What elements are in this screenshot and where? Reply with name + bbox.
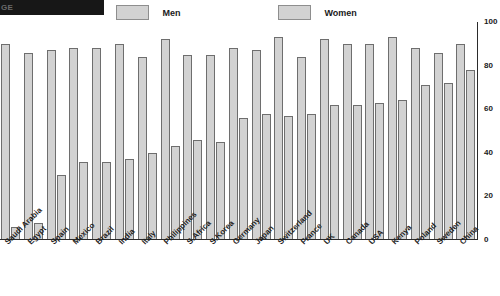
legend-label-men: Men [162, 8, 180, 18]
bar-men[interactable] [320, 39, 329, 240]
bar-group [1, 22, 21, 240]
y-axis-tick: 40 [484, 149, 493, 157]
bar-women[interactable] [307, 114, 316, 240]
bar-women[interactable] [239, 118, 248, 240]
bar-men[interactable] [274, 37, 283, 240]
bar-group [320, 22, 340, 240]
bar-group [47, 22, 67, 240]
bars-container [0, 22, 478, 240]
y-axis-tick: 100 [484, 18, 497, 26]
bar-group [365, 22, 385, 240]
bar-group [138, 22, 158, 240]
bar-group [206, 22, 226, 240]
bar-men[interactable] [456, 44, 465, 240]
bar-women[interactable] [353, 105, 362, 240]
legend-swatch-women [278, 5, 311, 20]
bar-men[interactable] [206, 55, 215, 240]
bar-group [229, 22, 249, 240]
bar-group [183, 22, 203, 240]
legend-swatch-men [116, 5, 149, 20]
bar-chart-plot-area [0, 22, 478, 240]
legend-label-women: Women [324, 8, 356, 18]
y-axis: 020406080100 [478, 0, 500, 296]
bar-group [115, 22, 135, 240]
bar-group [274, 22, 294, 240]
bar-women[interactable] [330, 105, 339, 240]
bar-group [343, 22, 363, 240]
bar-men[interactable] [343, 44, 352, 240]
bar-men[interactable] [92, 48, 101, 240]
bar-group [411, 22, 431, 240]
bar-men[interactable] [47, 50, 56, 240]
bar-women[interactable] [375, 103, 384, 240]
y-axis-tick: 0 [484, 236, 488, 244]
bar-men[interactable] [115, 44, 124, 240]
bar-men[interactable] [161, 39, 170, 240]
bar-group [388, 22, 408, 240]
bar-group [252, 22, 272, 240]
bar-men[interactable] [138, 57, 147, 240]
bar-women[interactable] [466, 70, 475, 240]
y-axis-tick: 60 [484, 105, 493, 113]
bar-group [456, 22, 476, 240]
legend-item-men: Men [116, 3, 180, 20]
bar-men[interactable] [411, 48, 420, 240]
bar-women[interactable] [444, 83, 453, 240]
y-axis-tick: 80 [484, 62, 493, 70]
title-banner: GE [0, 0, 104, 15]
chart-header: GE Men Women [0, 0, 500, 24]
bar-men[interactable] [229, 48, 238, 240]
bar-men[interactable] [1, 44, 10, 240]
bar-women[interactable] [262, 114, 271, 240]
bar-women[interactable] [398, 100, 407, 240]
y-axis-tick: 20 [484, 192, 493, 200]
bar-group [434, 22, 454, 240]
bar-women[interactable] [421, 85, 430, 240]
bar-women[interactable] [148, 153, 157, 240]
bar-men[interactable] [365, 44, 374, 240]
bar-men[interactable] [69, 48, 78, 240]
bar-men[interactable] [434, 53, 443, 240]
bar-women[interactable] [284, 116, 293, 240]
bar-group [92, 22, 112, 240]
bar-group [69, 22, 89, 240]
legend-item-women: Women [278, 3, 357, 20]
x-axis-labels: Saudi ArabiaEgyptSpainMexicoBrazilIndiaI… [0, 240, 478, 296]
bar-men[interactable] [388, 37, 397, 240]
bar-group [161, 22, 181, 240]
bar-men[interactable] [252, 50, 261, 240]
